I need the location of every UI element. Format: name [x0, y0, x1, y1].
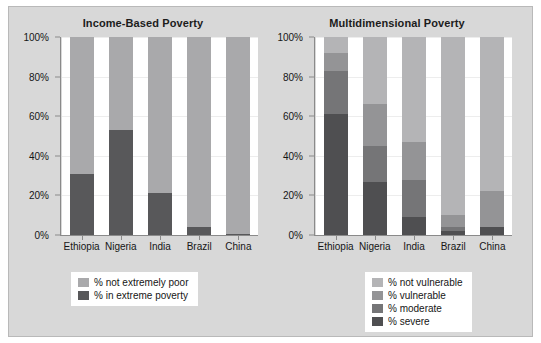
legend-item[interactable]: % in extreme poverty: [78, 289, 189, 302]
bar-segment: [402, 142, 426, 180]
bar-segment: [226, 37, 250, 234]
legend-multidimensional: % not vulnerable% vulnerable% moderate% …: [365, 272, 472, 332]
legend-swatch-icon: [372, 304, 383, 313]
y-tick-label: 40%: [29, 150, 55, 161]
legend-item[interactable]: % moderate: [372, 302, 463, 315]
x-tick-label-china: China: [225, 241, 251, 252]
bar-brazil[interactable]: [441, 37, 465, 235]
y-tick-mark: [309, 155, 314, 156]
y-tick-label: 20%: [29, 190, 55, 201]
legend-label: % moderate: [388, 303, 442, 314]
x-tick-label-india: India: [403, 241, 425, 252]
y-tick-label: 100%: [23, 32, 55, 43]
legend-item[interactable]: % vulnerable: [372, 289, 463, 302]
bar-segment: [187, 37, 211, 227]
y-tick-mark: [55, 235, 60, 236]
y-tick-label: 40%: [283, 150, 309, 161]
x-tick-mark: [121, 236, 122, 240]
x-axis-line-right: [314, 235, 512, 236]
x-axis-line-left: [60, 235, 258, 236]
legend-swatch-icon: [372, 291, 383, 300]
legend-income-based: % not extremely poor% in extreme poverty: [71, 272, 198, 306]
bar-brazil[interactable]: [187, 37, 211, 235]
bar-nigeria[interactable]: [363, 37, 387, 235]
bar-segment: [148, 37, 172, 193]
x-tick-mark: [453, 236, 454, 240]
bar-segment: [480, 191, 504, 227]
chart-title-left: Income-Based Poverty: [19, 17, 267, 29]
bar-segment: [70, 37, 94, 174]
bar-ethiopia[interactable]: [70, 37, 94, 235]
y-axis-line-left: [60, 37, 61, 236]
bar-segment: [402, 180, 426, 218]
y-tick-label: 80%: [29, 71, 55, 82]
bar-segment: [363, 146, 387, 182]
x-tick-label-brazil: Brazil: [441, 241, 466, 252]
x-tick-mark: [492, 236, 493, 240]
bar-segment: [324, 71, 348, 115]
x-tick-label-brazil: Brazil: [187, 241, 212, 252]
bar-segment: [402, 37, 426, 142]
legend-label: % not extremely poor: [94, 277, 189, 288]
bar-ethiopia[interactable]: [324, 37, 348, 235]
bar-segment: [324, 37, 348, 53]
y-tick-label: 60%: [29, 111, 55, 122]
bar-segment: [324, 53, 348, 71]
bar-nigeria[interactable]: [109, 37, 133, 235]
chart-title-right: Multidimensional Poverty: [271, 17, 523, 29]
y-tick-mark: [309, 76, 314, 77]
x-tick-mark: [375, 236, 376, 240]
bar-segment: [480, 37, 504, 191]
bar-segment: [480, 227, 504, 235]
legend-label: % vulnerable: [388, 290, 446, 301]
y-tick-mark: [55, 116, 60, 117]
y-tick-mark: [309, 37, 314, 38]
bar-segment: [441, 227, 465, 231]
y-tick-mark: [309, 235, 314, 236]
x-tick-label-ethiopia: Ethiopia: [64, 241, 100, 252]
legend-item[interactable]: % not extremely poor: [78, 276, 189, 289]
y-tick-mark: [55, 76, 60, 77]
y-tick-label: 80%: [283, 71, 309, 82]
y-tick-mark: [309, 116, 314, 117]
chart-income-based-poverty: Income-Based Poverty 0%20%40%60%80%100% …: [19, 17, 267, 265]
x-tick-label-nigeria: Nigeria: [359, 241, 391, 252]
y-axis-line-right: [314, 37, 315, 236]
y-tick-mark: [55, 37, 60, 38]
legend-swatch-icon: [372, 278, 383, 287]
legend-swatch-icon: [78, 291, 89, 300]
x-tick-label-india: India: [149, 241, 171, 252]
legend-item[interactable]: % severe: [372, 315, 463, 328]
y-tick-label: 100%: [277, 32, 309, 43]
bar-segment: [363, 104, 387, 146]
bar-india[interactable]: [402, 37, 426, 235]
bar-segment: [402, 217, 426, 235]
x-tick-mark: [336, 236, 337, 240]
bar-segment: [441, 37, 465, 215]
bar-segment: [70, 174, 94, 235]
legend-label: % severe: [388, 316, 430, 327]
x-tick-label-ethiopia: Ethiopia: [318, 241, 354, 252]
legend-item[interactable]: % not vulnerable: [372, 276, 463, 289]
bar-segment: [363, 37, 387, 104]
screenshot-root: Income-Based Poverty 0%20%40%60%80%100% …: [0, 0, 541, 343]
bar-segment: [109, 37, 133, 130]
bar-segment: [441, 215, 465, 227]
x-tick-mark: [414, 236, 415, 240]
y-tick-label: 0%: [35, 230, 55, 241]
bar-segment: [324, 114, 348, 235]
x-tick-mark: [199, 236, 200, 240]
y-tick-label: 20%: [283, 190, 309, 201]
figure-panel: Income-Based Poverty 0%20%40%60%80%100% …: [8, 6, 533, 337]
x-tick-mark: [82, 236, 83, 240]
plot-area-left: [62, 37, 258, 235]
chart-multidimensional-poverty: Multidimensional Poverty 0%20%40%60%80%1…: [271, 17, 523, 265]
legend-label: % in extreme poverty: [94, 290, 188, 301]
bar-segment: [109, 130, 133, 235]
bar-china[interactable]: [480, 37, 504, 235]
bar-china[interactable]: [226, 37, 250, 235]
bar-india[interactable]: [148, 37, 172, 235]
bar-segment: [363, 182, 387, 235]
y-tick-mark: [55, 195, 60, 196]
y-tick-label: 0%: [289, 230, 309, 241]
